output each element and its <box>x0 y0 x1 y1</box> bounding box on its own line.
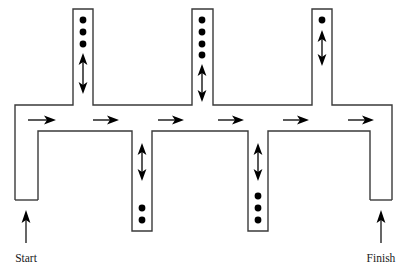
maze-lower-wall <box>38 131 370 231</box>
branch-double-arrow <box>318 30 327 66</box>
branch-dot <box>139 205 146 212</box>
branch-dot <box>255 193 262 200</box>
corridor-arrow-6 <box>348 116 374 125</box>
branch-dot <box>80 17 87 24</box>
corridor-arrow-5 <box>283 116 309 125</box>
branch-dot <box>255 217 262 224</box>
branch-double-arrow <box>138 143 147 181</box>
branch-dot <box>80 41 87 48</box>
branch-dot <box>199 17 206 24</box>
branch-dot <box>199 41 206 48</box>
finish-label: Finish <box>367 252 396 264</box>
corridor-flow-arrows <box>28 116 374 125</box>
maze-flow-diagram: Start Finish <box>0 0 408 268</box>
start-label: Start <box>15 252 38 264</box>
branch-dot <box>319 17 326 24</box>
start-marker: Start <box>15 210 38 264</box>
branch-double-arrow <box>254 143 263 181</box>
corridor-arrow-2 <box>93 116 119 125</box>
branch-dot <box>199 29 206 36</box>
maze-upper-wall <box>15 9 392 200</box>
branch-double-arrow <box>79 53 88 94</box>
bottom-branch-2 <box>254 143 263 223</box>
branch-dot <box>139 217 146 224</box>
branch-double-arrow <box>198 64 207 102</box>
branch-dot <box>255 205 262 212</box>
bottom-branch-1 <box>138 143 147 223</box>
top-branch-2 <box>198 17 207 102</box>
corridor-arrow-1 <box>28 116 56 125</box>
branch-dot <box>199 52 206 59</box>
corridor-arrow-4 <box>218 116 244 125</box>
corridor-arrow-3 <box>158 116 184 125</box>
top-branch-3 <box>318 17 327 66</box>
branch-dot <box>80 29 87 36</box>
top-branch-1 <box>79 17 88 94</box>
finish-marker: Finish <box>367 210 396 264</box>
